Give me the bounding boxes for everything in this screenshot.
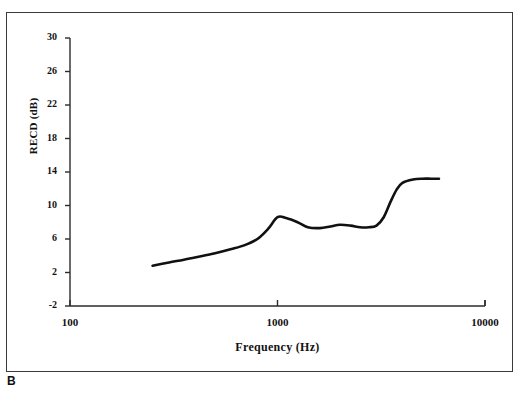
x-tick-marks	[70, 300, 485, 306]
y-tick-label: 6	[27, 232, 57, 243]
y-tick-label: 18	[27, 132, 57, 143]
y-tick-label: 30	[27, 31, 57, 42]
y-tick-label: 22	[27, 98, 57, 109]
y-tick-label: 2	[27, 266, 57, 277]
recd-frequency-chart: RECD (dB) Frequency (Hz) 30262218141062-…	[0, 0, 519, 393]
y-tick-label: -2	[27, 299, 57, 310]
recd-data-curve	[153, 179, 439, 266]
x-tick-label: 1000	[248, 316, 308, 328]
x-axis-title: Frequency (Hz)	[135, 340, 420, 355]
plot-svg	[0, 0, 519, 393]
x-tick-label: 10000	[455, 316, 515, 328]
y-tick-label: 26	[27, 65, 57, 76]
y-tick-label: 10	[27, 199, 57, 210]
panel-letter-b: B	[7, 374, 16, 388]
y-tick-marks	[65, 38, 70, 306]
scanned-figure-page: RECD (dB) Frequency (Hz) 30262218141062-…	[0, 0, 519, 393]
x-tick-label: 100	[40, 316, 100, 328]
y-tick-label: 14	[27, 165, 57, 176]
